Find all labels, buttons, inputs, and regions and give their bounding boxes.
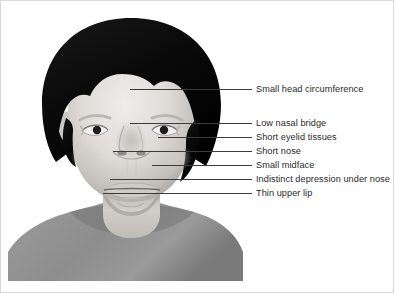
annotation-label-low-nasal-bridge: Low nasal bridge — [256, 118, 326, 128]
cheek-shadow-right — [160, 144, 192, 172]
annotation-label-short-eyelid-tissues: Short eyelid tissues — [256, 132, 337, 142]
annotation-label-short-nose: Short nose — [256, 146, 301, 156]
annotation-label-indistinct-depression-under-nose: Indistinct depression under nose — [256, 174, 390, 184]
annotation-label-small-head-circumference: Small head circumference — [256, 84, 363, 94]
illustration-figure: Small head circumferenceLow nasal bridge… — [0, 0, 395, 294]
annotation-label-small-midface: Small midface — [256, 160, 314, 170]
annotation-label-thin-upper-lip: Thin upper lip — [256, 188, 312, 198]
face-illustration-artwork — [0, 0, 395, 294]
cheek-shadow-left — [70, 144, 102, 172]
